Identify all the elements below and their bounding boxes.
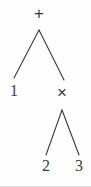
edge-root-to-left-leaf — [14, 30, 39, 78]
node-plus-operator: + — [34, 5, 44, 22]
node-leaf-two: 2 — [42, 158, 50, 174]
edge-times-to-right-leaf — [62, 110, 79, 155]
node-leaf-one: 1 — [10, 83, 18, 99]
node-multiply-operator: × — [57, 84, 67, 101]
edge-times-to-left-leaf — [46, 110, 62, 155]
node-leaf-three: 3 — [75, 158, 83, 174]
edge-root-to-times-node — [39, 30, 64, 80]
bottom-divider — [0, 186, 91, 187]
expression-tree-figure: + 1 × 2 3 — [0, 0, 91, 187]
